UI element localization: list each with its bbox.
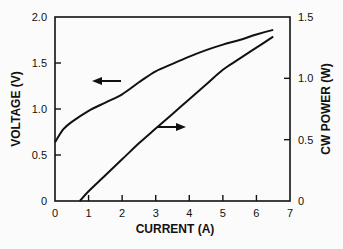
- voltage-arrow-icon: [92, 77, 121, 85]
- chart-canvas: 01234567 00.51.01.52.0 00.51.01.5 CURREN…: [0, 0, 343, 249]
- y-tick-label: 0.5: [32, 149, 47, 161]
- y-axis-title: VOLTAGE (V): [9, 71, 23, 147]
- voltage-curve: [55, 30, 273, 142]
- y-tick-label: 0: [41, 195, 47, 207]
- x-tick-label: 2: [119, 207, 125, 219]
- x-tick-label: 7: [287, 207, 293, 219]
- y2-tick-label: 1.0: [298, 72, 313, 84]
- y2-tick-label: 0: [298, 195, 304, 207]
- x-axis-title: CURRENT (A): [136, 222, 215, 236]
- y-tick-label: 2.0: [32, 11, 47, 23]
- x-tick-label: 0: [52, 207, 58, 219]
- y2-axis-title: CW POWER (W): [319, 63, 333, 154]
- y2-tick-label: 0.5: [298, 134, 313, 146]
- x-axis-ticks: 01234567: [52, 195, 293, 219]
- y2-tick-label: 1.5: [298, 11, 313, 23]
- x-tick-label: 1: [86, 207, 92, 219]
- x-tick-label: 6: [253, 207, 259, 219]
- x-tick-label: 4: [186, 207, 192, 219]
- y-tick-label: 1.0: [32, 103, 47, 115]
- x-tick-label: 3: [153, 207, 159, 219]
- y-tick-label: 1.5: [32, 57, 47, 69]
- x-tick-label: 5: [220, 207, 226, 219]
- data-curves: [55, 30, 273, 201]
- y2-axis-ticks: 00.51.01.5: [284, 11, 313, 207]
- y-axis-ticks: 00.51.01.52.0: [32, 11, 61, 207]
